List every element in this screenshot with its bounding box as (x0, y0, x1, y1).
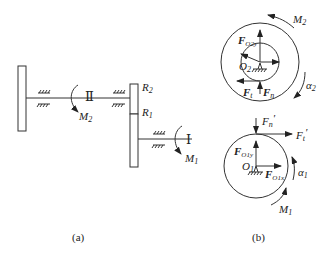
radius-R1-label: R1 (141, 106, 153, 120)
moment-M1-label: M1 (184, 152, 198, 166)
angular-acc-arrow-alpha2 (294, 72, 305, 98)
shaft-II-label: Ⅱ (85, 89, 94, 104)
moment-M2-label: M2 (78, 110, 92, 124)
gear2-center-label: O2 (239, 60, 251, 74)
gear1-reaction-y-label: FO1y (233, 145, 254, 159)
moment-arrow-M2 (268, 15, 294, 28)
angular-acc-arrow-alpha1 (292, 157, 294, 180)
shaft-I-label: Ⅰ (186, 132, 191, 147)
gear2-reaction-y-label: FO2y (237, 34, 258, 48)
gear2-alpha-label: α2 (306, 79, 316, 93)
gear-R2 (130, 84, 138, 114)
gear2-normal-label: Fn (262, 86, 274, 100)
gear1-reaction-x-label: FO1x (264, 168, 285, 182)
gear1-moment-label: M1 (278, 203, 292, 217)
caption-a: (a) (72, 231, 85, 244)
figure-a (18, 66, 192, 167)
gear-transmission-diagram: Ⅱ Ⅰ M2 M1 R2 R1 (a) M2 α2 O2 FO2y Ft Fn (0, 0, 326, 254)
gear-R1 (130, 114, 138, 167)
gear1-alpha-label: α1 (298, 166, 308, 180)
gear2-moment-label: M2 (292, 13, 306, 27)
gear1-tangential-label: Ft′ (295, 126, 308, 143)
gear2-tangential-label: Ft (242, 86, 253, 100)
gear1-fbd (224, 118, 294, 205)
gear-large-left (18, 66, 26, 131)
gear1-normal-label: Fn′ (261, 112, 276, 129)
moment-arrow-M1 (175, 126, 182, 154)
caption-b: (b) (252, 231, 265, 244)
gear1-center-label: O1 (242, 160, 254, 174)
pin-support-icon (252, 63, 267, 72)
radius-R2-label: R2 (141, 81, 153, 95)
